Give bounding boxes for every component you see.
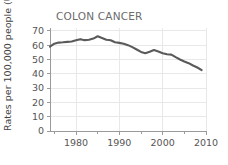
y-tick-label: 50 [32, 54, 44, 65]
y-tick-label: 0 [38, 125, 44, 136]
y-tick-label: 10 [32, 111, 44, 122]
y-tick-label: 30 [32, 82, 44, 93]
x-tick-label: 2000 [151, 137, 175, 148]
x-tick-label: 1980 [64, 137, 88, 148]
y-tick-label: 70 [32, 25, 44, 36]
chart-title: COLON CANCER [56, 10, 143, 22]
chart-container: COLON CANCER Rates per 100,000 people (U… [0, 0, 228, 165]
y-axis-title: Rates per 100,000 people (US) [2, 0, 13, 131]
y-tick-label: 60 [32, 40, 44, 51]
y-tick-label: 40 [32, 68, 44, 79]
x-tick-label: 1990 [107, 137, 131, 148]
colon-cancer-line-chart: COLON CANCER Rates per 100,000 people (U… [0, 0, 228, 165]
x-tick-label: 2010 [194, 137, 218, 148]
y-tick-label: 20 [32, 97, 44, 108]
